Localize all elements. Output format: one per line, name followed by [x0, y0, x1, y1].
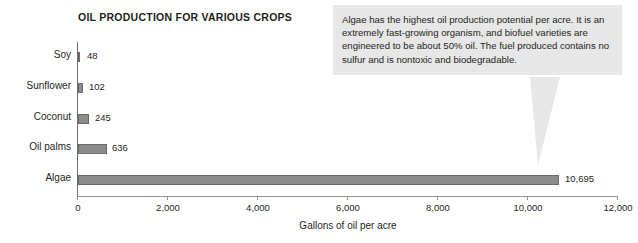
bar-value-sunflower: 102	[89, 81, 105, 92]
category-label-oil-palms: Oil palms	[29, 141, 71, 152]
chart-figure: OIL PRODUCTION FOR VARIOUS CROPS Soy 48 …	[0, 0, 638, 243]
bar-value-algae: 10,695	[565, 173, 594, 184]
tick-mark	[527, 196, 528, 200]
tick-mark	[347, 196, 348, 200]
bar-sunflower[interactable]	[78, 83, 83, 93]
tick-mark	[617, 196, 618, 200]
x-tick-label: 2,000	[156, 202, 180, 213]
bar-value-soy: 48	[87, 50, 98, 61]
tick-mark	[257, 196, 258, 200]
x-tick-label: 0	[75, 202, 80, 213]
category-label-coconut: Coconut	[34, 111, 71, 122]
category-label-sunflower: Sunflower	[27, 80, 71, 91]
x-tick-label: 6,000	[336, 202, 360, 213]
bar-algae[interactable]	[78, 175, 559, 185]
bar-value-oil-palms: 636	[112, 142, 128, 153]
x-tick-label: 4,000	[246, 202, 270, 213]
bar-soy[interactable]	[78, 52, 80, 62]
x-tick-label: 12,000	[603, 202, 632, 213]
bar-row: Algae 10,695	[78, 165, 618, 196]
x-tick-label: 8,000	[426, 202, 450, 213]
tick-mark	[437, 196, 438, 200]
tick-mark	[167, 196, 168, 200]
bar-oil-palms[interactable]	[78, 144, 107, 154]
bar-value-coconut: 245	[95, 112, 111, 123]
category-label-soy: Soy	[54, 49, 71, 60]
tick-mark	[77, 196, 78, 200]
callout-annotation: Algae has the highest oil production pot…	[333, 5, 622, 75]
x-tick-label: 10,000	[513, 202, 542, 213]
callout-pointer-icon	[504, 77, 564, 167]
category-label-algae: Algae	[45, 172, 71, 183]
x-axis-title: Gallons of oil per acre	[78, 220, 618, 231]
bar-coconut[interactable]	[78, 114, 89, 124]
